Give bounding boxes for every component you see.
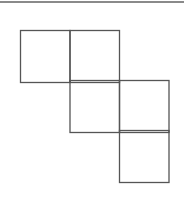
square-1 bbox=[21, 31, 71, 83]
square-5 bbox=[120, 131, 170, 183]
square-4 bbox=[120, 81, 170, 133]
square-3 bbox=[70, 81, 120, 133]
square-net-diagram bbox=[0, 0, 184, 201]
squares-group bbox=[21, 31, 170, 183]
square-2 bbox=[70, 31, 120, 83]
